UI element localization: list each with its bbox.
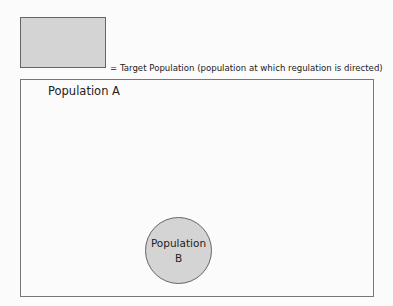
legend-label: = Target Population (population at which… xyxy=(110,63,383,73)
population-b-label-line2: B xyxy=(175,251,182,266)
population-b-label-line1: Population xyxy=(151,236,206,251)
population-b-circle: Population B xyxy=(145,217,212,284)
legend-swatch-target-population xyxy=(20,17,106,68)
population-a-label: Population A xyxy=(48,84,120,98)
